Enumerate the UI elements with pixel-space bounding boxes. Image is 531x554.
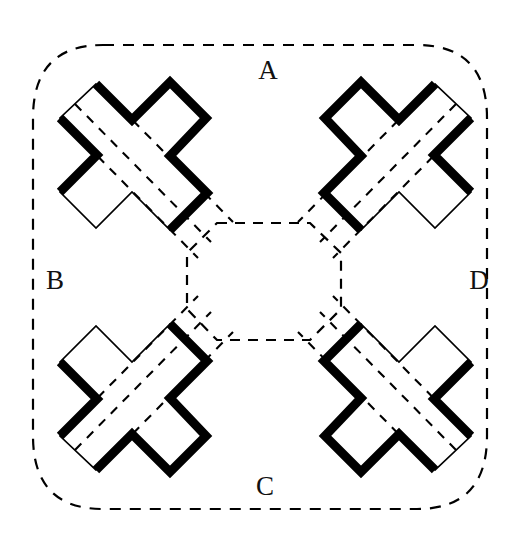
label-b: B — [46, 265, 64, 295]
label-d: D — [469, 265, 489, 295]
label-c: C — [256, 471, 274, 501]
label-a: A — [258, 55, 278, 85]
cross-tiling-diagram: A B C D — [0, 0, 531, 554]
figure-root: A B C D — [0, 0, 531, 554]
